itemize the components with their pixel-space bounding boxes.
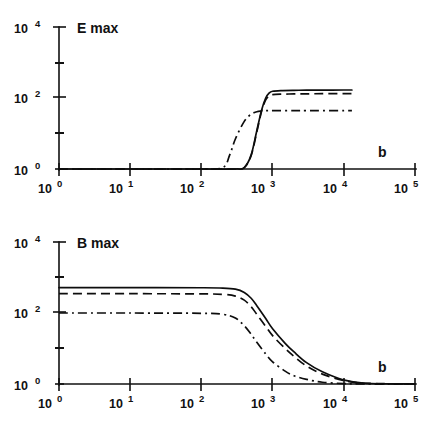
bottom-y-ticklabel-1e2: 10 2 (14, 303, 40, 321)
top-x-ticklabel-1e3-base: 10 (251, 182, 265, 196)
bottom-x-ticklabel-1e3: 10 3 (251, 393, 275, 411)
top-x-ticklabel-1e2-exp: 2 (199, 178, 204, 189)
top-panel-variable-label: E max (77, 20, 118, 36)
top-y-ticklabel-1e4: 10 4 (14, 18, 41, 36)
bottom-x-axis-label: b (378, 359, 387, 375)
top-y-ticklabel-1e4-exp: 4 (35, 18, 41, 29)
bottom-panel-variable-label: B max (77, 235, 119, 251)
bottom-x-ticklabel-1e0: 10 0 (38, 393, 62, 411)
bottom-curve-dash-dot (59, 313, 415, 384)
bottom-x-ticklabel-1e2-base: 10 (180, 397, 194, 411)
top-y-ticklabel-1e2-base: 10 (14, 92, 28, 106)
top-x-ticklabel-1e5-exp: 5 (413, 178, 419, 189)
bottom-curve-solid (59, 288, 415, 384)
bottom-y-ticklabel-1e0-base: 10 (14, 379, 28, 393)
figure-container: E max b 10 4 10 2 10 0 10 0 10 (0, 0, 438, 439)
bottom-x-ticklabel-1e4: 10 4 (323, 393, 348, 411)
top-x-ticklabel-1e4-exp: 4 (342, 178, 348, 189)
bottom-y-ticklabel-1e0: 10 0 (14, 375, 40, 393)
bottom-x-ticklabel-1e3-base: 10 (251, 397, 265, 411)
top-curve-dashed (59, 94, 352, 169)
top-x-ticklabel-1e3: 10 3 (251, 178, 275, 196)
top-x-ticklabel-1e1-base: 10 (109, 182, 123, 196)
bottom-x-ticklabel-1e1-exp: 1 (128, 393, 134, 404)
bottom-x-ticklabel-1e5-exp: 5 (413, 393, 419, 404)
top-curve-solid (59, 90, 352, 169)
bottom-y-ticklabel-1e2-base: 10 (14, 307, 28, 321)
bottom-x-ticklabel-1e4-base: 10 (323, 397, 337, 411)
bottom-x-ticklabel-1e2-exp: 2 (199, 393, 204, 404)
top-y-ticklabel-1e2-exp: 2 (35, 88, 40, 99)
bottom-x-ticklabel-1e2: 10 2 (180, 393, 204, 411)
top-curve-dash-dot (59, 111, 352, 169)
top-x-ticklabel-1e1: 10 1 (109, 178, 134, 196)
top-x-axis-label: b (378, 144, 387, 160)
bottom-y-ticklabel-1e2-exp: 2 (35, 303, 40, 314)
top-y-ticklabel-1e0-base: 10 (14, 164, 28, 178)
top-x-ticklabel-1e3-exp: 3 (270, 178, 275, 189)
bottom-curve-dashed (59, 294, 415, 384)
bottom-x-ticklabel-1e1: 10 1 (109, 393, 134, 411)
top-x-ticklabel-1e0-base: 10 (38, 182, 52, 196)
top-x-ticklabel-1e0-exp: 0 (57, 178, 62, 189)
bottom-x-ticklabel-1e0-exp: 0 (57, 393, 62, 404)
bottom-x-ticklabel-1e5: 10 5 (394, 393, 419, 411)
top-x-ticklabel-1e0: 10 0 (38, 178, 62, 196)
top-y-ticklabel-1e0-exp: 0 (35, 160, 40, 171)
top-x-ticklabel-1e5: 10 5 (394, 178, 419, 196)
bottom-x-ticklabel-1e3-exp: 3 (270, 393, 275, 404)
bottom-x-ticklabel-1e1-base: 10 (109, 397, 123, 411)
bottom-y-ticklabel-1e4-base: 10 (14, 237, 28, 251)
bottom-y-ticklabel-1e4: 10 4 (14, 233, 41, 251)
top-x-ticklabel-1e5-base: 10 (394, 182, 408, 196)
top-x-ticklabel-1e4: 10 4 (323, 178, 348, 196)
top-y-ticklabel-1e2: 10 2 (14, 88, 40, 106)
bottom-x-ticklabel-1e4-exp: 4 (342, 393, 348, 404)
top-x-ticklabel-1e2-base: 10 (180, 182, 194, 196)
bottom-x-ticklabel-1e0-base: 10 (38, 397, 52, 411)
bottom-x-ticklabel-1e5-base: 10 (394, 397, 408, 411)
E-max-panel: E max b 10 4 10 2 10 0 10 0 10 (14, 18, 419, 196)
top-y-ticklabel-1e0: 10 0 (14, 160, 40, 178)
top-x-ticklabel-1e4-base: 10 (323, 182, 337, 196)
top-x-ticklabel-1e1-exp: 1 (128, 178, 134, 189)
bottom-y-ticklabel-1e0-exp: 0 (35, 375, 40, 386)
top-y-ticklabel-1e4-base: 10 (14, 22, 28, 36)
top-x-ticklabel-1e2: 10 2 (180, 178, 204, 196)
bottom-y-ticklabel-1e4-exp: 4 (35, 233, 41, 244)
B-max-panel: B max b 10 4 10 2 10 0 10 0 10 1 (14, 233, 419, 411)
two-panel-loglog-figure: E max b 10 4 10 2 10 0 10 0 10 (0, 0, 438, 439)
